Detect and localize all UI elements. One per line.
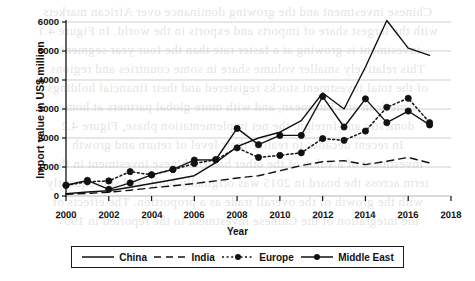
- series-marker-europe: [277, 152, 283, 158]
- chart-figure: Import value in US$ million Year 0100020…: [0, 0, 475, 281]
- legend-label: China: [119, 252, 147, 263]
- x-tick-label: 2016: [388, 209, 428, 221]
- x-tick-label: 2012: [303, 209, 343, 221]
- legend-label: Middle East: [338, 252, 394, 263]
- series-marker-middle-east: [234, 125, 240, 131]
- y-tick-label: 4000: [17, 74, 59, 85]
- x-tick-label: 2018: [431, 209, 471, 221]
- x-tick-label: 2014: [345, 209, 385, 221]
- legend-label: India: [191, 252, 214, 263]
- legend-swatch-solid: [81, 252, 115, 262]
- legend-item-middle-east[interactable]: Middle East: [300, 252, 394, 263]
- x-tick-label: 2006: [174, 209, 214, 221]
- series-marker-middle-east: [84, 177, 90, 183]
- series-marker-middle-east: [277, 132, 283, 138]
- x-tick-label: 2008: [217, 209, 257, 221]
- line-chart-plot: [0, 0, 475, 281]
- legend-label: Europe: [259, 252, 293, 263]
- series-marker-middle-east: [191, 157, 197, 163]
- series-marker-middle-east: [341, 124, 347, 130]
- series-marker-middle-east: [362, 96, 368, 102]
- series-marker-middle-east: [427, 122, 433, 128]
- legend-item-europe[interactable]: Europe: [221, 252, 293, 263]
- series-marker-europe: [298, 150, 304, 156]
- series-marker-middle-east: [384, 120, 390, 126]
- series-marker-europe: [106, 178, 112, 184]
- series-marker-middle-east: [170, 166, 176, 172]
- y-tick-label: 1000: [17, 161, 59, 172]
- series-marker-europe: [405, 95, 411, 101]
- x-axis-title: Year: [0, 226, 475, 237]
- series-marker-middle-east: [213, 157, 219, 163]
- y-tick-label: 5000: [17, 45, 59, 56]
- series-marker-middle-east: [148, 172, 154, 178]
- legend-swatch-solid-marker: [300, 252, 334, 262]
- series-marker-middle-east: [405, 108, 411, 114]
- x-tick-label: 2002: [89, 209, 129, 221]
- x-tick-label: 2004: [131, 209, 171, 221]
- legend-swatch-dashed: [153, 252, 187, 262]
- series-marker-europe: [127, 169, 133, 175]
- series-marker-europe: [255, 154, 261, 160]
- series-marker-europe: [362, 128, 368, 134]
- series-marker-europe: [234, 145, 240, 151]
- series-line-china: [66, 21, 430, 194]
- y-tick-label: 6000: [17, 16, 59, 27]
- series-marker-middle-east: [63, 182, 69, 188]
- series-marker-europe: [384, 104, 390, 110]
- series-marker-middle-east: [127, 180, 133, 186]
- x-tick-label: 2010: [260, 209, 300, 221]
- series-marker-middle-east: [298, 132, 304, 138]
- legend-item-india[interactable]: India: [153, 252, 214, 263]
- y-tick-label: 0: [17, 190, 59, 201]
- series-marker-middle-east: [255, 142, 261, 148]
- legend-swatch-dotted-marker: [221, 252, 255, 262]
- y-tick-label: 3000: [17, 103, 59, 114]
- x-tick-label: 2000: [46, 209, 86, 221]
- chart-legend: ChinaIndiaEuropeMiddle East: [71, 246, 404, 268]
- series-marker-europe: [341, 137, 347, 143]
- legend-item-china[interactable]: China: [81, 252, 147, 263]
- series-marker-middle-east: [320, 93, 326, 99]
- series-marker-middle-east: [106, 186, 112, 192]
- series-marker-europe: [320, 135, 326, 141]
- y-tick-label: 2000: [17, 132, 59, 143]
